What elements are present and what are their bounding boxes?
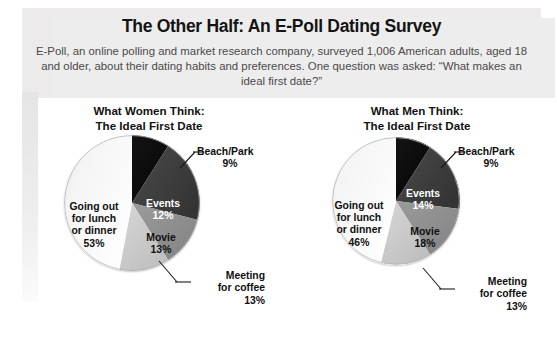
out-label-coffee-women-pct: 13% (244, 295, 265, 306)
pie-chart-women: What Women Think: The Ideal First Date (34, 104, 294, 344)
slice-label-events-men-name: Events (406, 188, 440, 199)
slice-label-dinner-men-pct: 46% (349, 237, 370, 248)
chart-title-men-line2: The Ideal First Date (364, 119, 471, 132)
slice-label-dinner-men-line2: for lunch (337, 212, 381, 223)
page-subtitle: E-Poll, an online polling and market res… (34, 44, 529, 90)
slice-label-movie-women: Movie 13% (134, 232, 188, 256)
out-label-coffee-men: Meeting for coffee 13% (451, 276, 527, 313)
slice-label-events-women: Events 12% (136, 198, 190, 222)
slice-label-dinner-women-line3: or dinner (71, 225, 116, 236)
infographic-page: The Other Half: An E-Poll Dating Survey … (0, 0, 557, 347)
chart-title-women-line2: The Ideal First Date (96, 119, 203, 132)
slice-label-dinner-men-line3: or dinner (336, 224, 381, 235)
out-label-beach-women-pct: 9% (197, 158, 263, 170)
chart-title-men: What Men Think: The Ideal First Date (302, 104, 532, 133)
chart-title-women: What Women Think: The Ideal First Date (34, 104, 264, 133)
slice-label-movie-women-name: Movie (146, 232, 175, 243)
slice-label-dinner-women-pct: 53% (84, 238, 105, 249)
out-label-beach-women: Beach/Park 9% (197, 146, 287, 171)
out-label-coffee-men-pct: 13% (506, 301, 527, 312)
slice-label-dinner-women-line1: Going out (69, 201, 118, 212)
slice-label-events-men-pct: 14% (413, 200, 434, 211)
out-label-coffee-men-line1: Meeting (488, 276, 527, 287)
out-label-coffee-women-line2: for coffee (218, 282, 265, 293)
leader-line-coffee-women (158, 260, 192, 286)
pie-chart-men: What Men Think: The Ideal First Date (288, 104, 548, 344)
out-label-beach-men-name: Beach/Park (458, 146, 515, 157)
out-label-beach-men-pct: 9% (458, 158, 524, 170)
slice-label-events-women-name: Events (146, 198, 180, 209)
slice-label-events-men: Events 14% (396, 188, 450, 212)
out-label-coffee-men-line2: for coffee (480, 288, 527, 299)
slice-label-movie-men: Movie 18% (398, 226, 452, 250)
out-label-coffee-women-line1: Meeting (226, 270, 265, 281)
chart-title-men-line1: What Men Think: (371, 104, 464, 117)
slice-label-events-women-pct: 12% (153, 210, 174, 221)
slice-label-movie-men-name: Movie (410, 226, 439, 237)
chart-title-women-line1: What Women Think: (93, 104, 204, 117)
out-label-beach-men: Beach/Park 9% (458, 146, 548, 171)
page-title: The Other Half: An E-Poll Dating Survey (22, 16, 541, 37)
slice-label-movie-men-pct: 18% (415, 238, 436, 249)
slice-label-dinner-women-line2: for lunch (72, 213, 116, 224)
out-label-coffee-women: Meeting for coffee 13% (189, 270, 265, 307)
slice-label-dinner-women: Going out for lunch or dinner 53% (63, 201, 125, 250)
out-label-beach-women-name: Beach/Park (197, 146, 254, 157)
slice-label-dinner-men-line1: Going out (334, 200, 383, 211)
slice-label-movie-women-pct: 13% (151, 244, 172, 255)
slice-label-dinner-men: Going out for lunch or dinner 46% (328, 200, 390, 249)
